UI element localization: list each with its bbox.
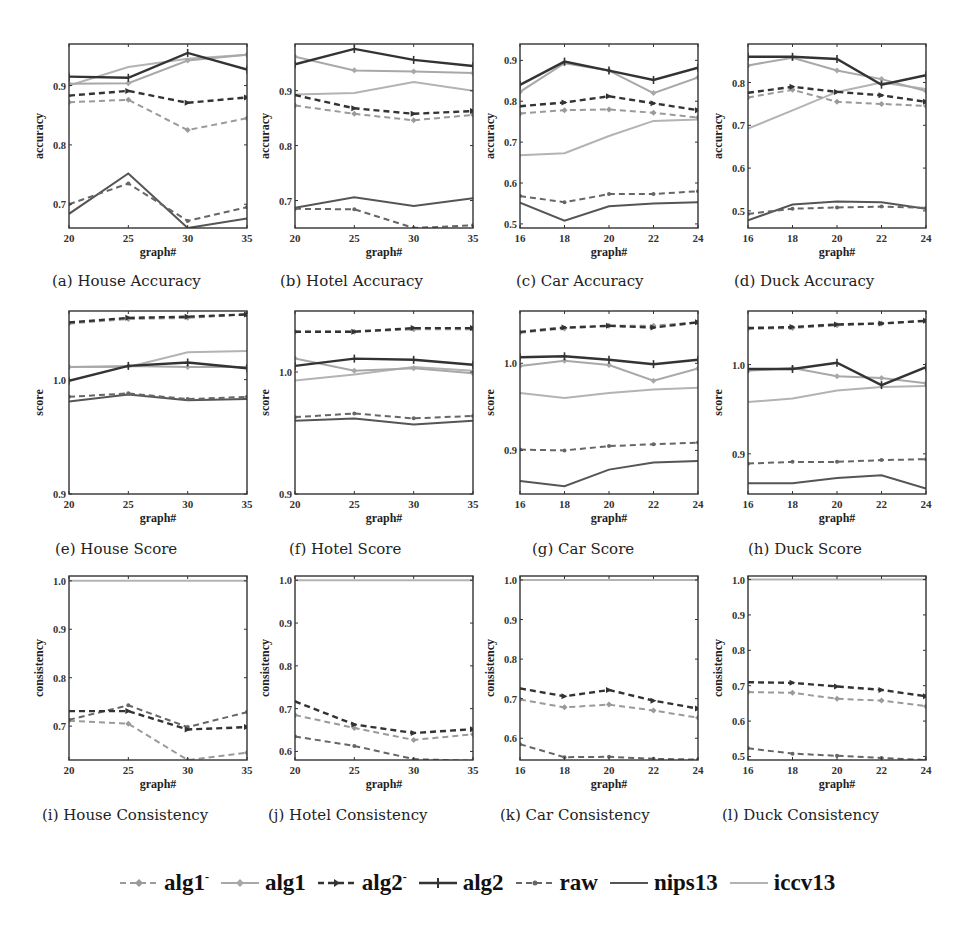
caption-e: (e) House Score — [55, 540, 177, 558]
plot-b: 20253035graph#0.70.80.9accuracy — [258, 44, 479, 259]
y-tick-label: 0.7 — [732, 120, 745, 131]
legend-line-dashed-light-icon — [120, 878, 158, 888]
caption-i: (i) House Consistency — [42, 806, 208, 824]
legend-item-alg2: alg2 — [419, 870, 504, 896]
y-axis-label: consistency — [483, 639, 497, 697]
y-tick-label: 0.8 — [53, 673, 66, 684]
x-tick-label: 25 — [349, 764, 361, 776]
y-tick-label: 0.9 — [504, 445, 517, 456]
series-alg2 — [69, 363, 247, 381]
y-tick-label: 0.8 — [504, 654, 517, 665]
series-nips13 — [69, 173, 247, 228]
caption-h: (h) Duck Score — [748, 540, 862, 558]
caption-d: (d) Duck Accuracy — [734, 272, 874, 290]
series-alg1-minus — [69, 100, 247, 130]
x-tick-label: 18 — [559, 498, 571, 510]
y-tick-label: 0.5 — [732, 206, 745, 217]
legend-label-raw: raw — [560, 870, 598, 896]
y-tick-label: 0.9 — [53, 624, 66, 635]
series-alg2-minus — [69, 314, 247, 322]
x-tick-label: 20 — [604, 498, 616, 510]
x-tick-label: 22 — [648, 498, 660, 510]
series-alg2-minus — [295, 95, 473, 114]
plot-l: 1618202224graph#0.50.60.70.80.91.0consis… — [711, 575, 932, 791]
legend-label-iccv13: iccv13 — [774, 870, 835, 896]
x-tick-label: 24 — [693, 498, 705, 510]
axes-frame — [520, 311, 698, 494]
y-axis-label: score — [258, 389, 272, 416]
y-tick-label: 0.8 — [504, 96, 517, 107]
series-alg1-minus — [295, 329, 473, 331]
series-iccv13 — [520, 388, 698, 398]
x-tick-label: 35 — [468, 764, 480, 776]
x-tick-label: 20 — [64, 764, 76, 776]
x-axis-label: graph# — [140, 777, 177, 791]
series-nips13 — [520, 202, 698, 220]
legend-line-dashed-mid-icon — [516, 878, 554, 888]
legend-item-iccv13: iccv13 — [730, 870, 835, 896]
axes-frame — [748, 576, 926, 760]
caption-g: (g) Car Score — [532, 540, 634, 558]
y-axis-label: accuracy — [258, 113, 272, 159]
axes-frame — [295, 576, 473, 760]
y-axis-label: accuracy — [483, 113, 497, 159]
y-tick-label: 0.8 — [279, 661, 292, 672]
legend-item-nips13: nips13 — [610, 870, 718, 896]
series-nips13 — [295, 197, 473, 208]
y-tick-label: 0.6 — [504, 178, 517, 189]
y-tick-label: 0.6 — [732, 716, 745, 727]
caption-b: (b) Hotel Accuracy — [280, 272, 423, 290]
x-tick-label: 20 — [604, 764, 616, 776]
y-axis-label: accuracy — [32, 113, 46, 159]
plots-canvas: 20253035graph#0.70.80.9accuracy20253035g… — [0, 0, 962, 860]
series-iccv13 — [295, 82, 473, 95]
x-tick-label: 24 — [921, 232, 933, 244]
legend-line-solid-light-icon — [221, 878, 259, 888]
series-alg2-minus — [295, 701, 473, 733]
legend-label-alg2-minus: alg2- — [362, 870, 407, 896]
legend: alg1- alg1 alg2- alg2 raw nips13 iccv13 — [120, 858, 841, 908]
x-tick-label: 20 — [290, 764, 302, 776]
legend-line-solid-dark-icon — [419, 878, 457, 888]
y-tick-label: 1.0 — [504, 358, 517, 369]
x-tick-label: 16 — [515, 764, 527, 776]
y-tick-label: 0.5 — [504, 219, 517, 230]
series-alg2-minus — [69, 711, 247, 729]
y-axis-label: score — [711, 389, 725, 416]
caption-l: (l) Duck Consistency — [722, 806, 879, 824]
series-iccv13 — [520, 120, 698, 156]
x-tick-label: 24 — [921, 764, 933, 776]
legend-line-solid-pale-icon — [730, 878, 768, 888]
plot-g: 1618202224graph#0.91.0score — [483, 311, 704, 525]
y-tick-label: 0.6 — [279, 746, 292, 757]
y-axis-label: consistency — [711, 639, 725, 697]
series-alg1-minus — [295, 715, 473, 740]
series-nips13 — [748, 202, 926, 221]
axes-frame — [69, 311, 247, 494]
caption-f: (f) Hotel Score — [289, 540, 401, 558]
x-axis-label: graph# — [140, 245, 177, 259]
series-raw — [295, 414, 473, 419]
legend-label-alg1-minus: alg1- — [164, 870, 209, 896]
y-tick-label: 0.7 — [504, 694, 517, 705]
y-tick-label: 0.9 — [53, 489, 66, 500]
y-axis-label: consistency — [258, 639, 272, 697]
legend-label-alg1: alg1 — [265, 870, 306, 896]
y-tick-label: 0.7 — [53, 721, 66, 732]
y-tick-label: 1.0 — [279, 575, 292, 586]
legend-item-alg2-minus: alg2- — [318, 870, 407, 896]
x-tick-label: 35 — [242, 764, 254, 776]
legend-line-solid-mid-icon — [610, 878, 648, 888]
x-tick-label: 25 — [123, 764, 135, 776]
series-raw — [295, 209, 473, 228]
x-tick-label: 22 — [648, 764, 660, 776]
x-axis-label: graph# — [591, 511, 628, 525]
legend-item-raw: raw — [516, 870, 598, 896]
y-tick-label: 1.0 — [732, 575, 745, 586]
x-tick-label: 18 — [559, 232, 571, 244]
x-tick-label: 18 — [559, 764, 571, 776]
legend-item-alg1-minus: alg1- — [120, 870, 209, 896]
axes-frame — [520, 576, 698, 760]
plot-k: 1618202224graph#0.60.70.80.91.0consisten… — [483, 575, 704, 791]
y-tick-label: 0.8 — [279, 141, 292, 152]
